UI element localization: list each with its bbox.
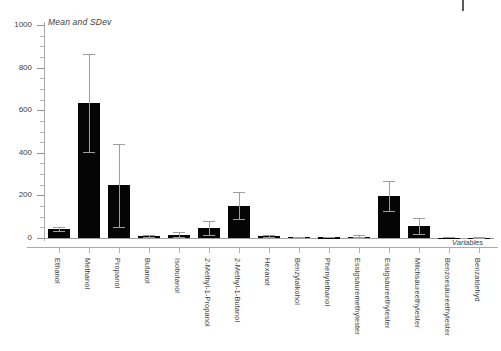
y-tick-minor bbox=[40, 227, 44, 228]
x-tick bbox=[119, 248, 120, 253]
y-tick-label: 1000 bbox=[4, 20, 32, 29]
x-axis-label: Milchsäureethylester bbox=[413, 258, 422, 328]
error-bar-cap-lower bbox=[83, 152, 95, 153]
x-tick bbox=[329, 248, 330, 253]
x-tick bbox=[179, 248, 180, 253]
x-tick bbox=[299, 248, 300, 253]
chart-title: Mean and SDev bbox=[48, 17, 112, 27]
y-tick-label: 200 bbox=[4, 190, 32, 199]
error-bar-cap-lower bbox=[323, 237, 335, 238]
y-tick-major bbox=[37, 195, 44, 196]
x-axis-label: Essigsäureethylester bbox=[383, 258, 392, 329]
y-tick-minor bbox=[40, 89, 44, 90]
error-bar-cap-lower bbox=[173, 237, 185, 238]
x-axis-label: 2-Methyl-1-Propanol bbox=[203, 258, 212, 327]
x-axis-label: Benzaldehyd bbox=[473, 258, 482, 302]
x-tick bbox=[59, 248, 60, 253]
x-axis-label: Essigsäuremethylester bbox=[353, 258, 362, 335]
y-tick-major bbox=[37, 68, 44, 69]
x-axis-label: Methanol bbox=[83, 258, 92, 289]
x-axis-label: Butanol bbox=[143, 258, 152, 284]
x-tick bbox=[239, 248, 240, 253]
x-tick bbox=[359, 248, 360, 253]
x-axis-label: Isobutanol bbox=[173, 258, 182, 293]
y-tick-major bbox=[37, 25, 44, 26]
error-bar-cap-upper bbox=[53, 227, 65, 228]
error-bar-cap-upper bbox=[113, 144, 125, 145]
error-bar-cap-lower bbox=[113, 227, 125, 228]
error-bar-line bbox=[89, 54, 90, 152]
error-bar-cap-lower bbox=[443, 237, 455, 238]
error-bar-cap-lower bbox=[383, 211, 395, 212]
error-bar-line bbox=[389, 181, 390, 211]
y-axis-line bbox=[44, 22, 45, 241]
y-tick-major bbox=[37, 238, 44, 239]
y-tick-minor bbox=[40, 121, 44, 122]
y-tick-minor bbox=[40, 132, 44, 133]
x-axis-title: Variables bbox=[452, 238, 483, 247]
y-tick-minor bbox=[40, 206, 44, 207]
error-bar-cap-upper bbox=[383, 181, 395, 182]
error-bar-cap-lower bbox=[143, 237, 155, 238]
x-tick bbox=[479, 248, 480, 253]
y-tick-major bbox=[37, 110, 44, 111]
x-axis-label: Phenylethanol bbox=[323, 258, 332, 306]
x-axis-label: Benzylalkohol bbox=[293, 258, 302, 305]
x-axis-label: Hexanol bbox=[263, 258, 272, 286]
x-axis-label: Propanol bbox=[113, 258, 122, 288]
error-bar-line bbox=[239, 192, 240, 218]
x-axis-label: 2-Methyl-1-Butanol bbox=[233, 258, 242, 322]
x-tick bbox=[209, 248, 210, 253]
bar-chart: Mean and SDev Variables 0200400600800100… bbox=[0, 0, 501, 351]
plot-baseline bbox=[44, 238, 494, 239]
x-axis-label: Benzoesäureethylester bbox=[443, 258, 452, 336]
y-tick-minor bbox=[40, 185, 44, 186]
y-tick-minor bbox=[40, 78, 44, 79]
error-bar-cap-upper bbox=[413, 218, 425, 219]
y-tick-major bbox=[37, 153, 44, 154]
x-tick bbox=[419, 248, 420, 253]
error-bar-cap-upper bbox=[203, 221, 215, 222]
x-tick bbox=[89, 248, 90, 253]
error-bar-cap-lower bbox=[263, 237, 275, 238]
x-axis-line bbox=[27, 247, 498, 248]
error-bar-cap-upper bbox=[143, 235, 155, 236]
error-bar-cap-lower bbox=[293, 237, 305, 238]
x-tick bbox=[269, 248, 270, 253]
y-tick-minor bbox=[40, 100, 44, 101]
error-bar-line bbox=[209, 221, 210, 235]
y-tick-minor bbox=[40, 36, 44, 37]
y-tick-minor bbox=[40, 217, 44, 218]
y-tick-minor bbox=[40, 174, 44, 175]
error-bar-cap-lower bbox=[473, 237, 485, 238]
y-tick-label: 800 bbox=[4, 63, 32, 72]
error-bar-cap-upper bbox=[233, 192, 245, 193]
y-tick-minor bbox=[40, 46, 44, 47]
page-rule-tick bbox=[462, 0, 464, 11]
error-bar-cap-lower bbox=[233, 219, 245, 220]
error-bar-line bbox=[119, 144, 120, 227]
x-tick bbox=[449, 248, 450, 253]
error-bar-cap-lower bbox=[53, 231, 65, 232]
y-tick-minor bbox=[40, 57, 44, 58]
y-tick-label: 400 bbox=[4, 148, 32, 157]
error-bar-cap-upper bbox=[83, 54, 95, 55]
error-bar-line bbox=[419, 218, 420, 234]
y-tick-label: 600 bbox=[4, 105, 32, 114]
error-bar-cap-upper bbox=[173, 232, 185, 233]
error-bar-cap-lower bbox=[413, 234, 425, 235]
x-tick bbox=[149, 248, 150, 253]
x-axis-label: Ethanol bbox=[53, 258, 62, 284]
y-tick-minor bbox=[40, 163, 44, 164]
error-bar-cap-lower bbox=[203, 235, 215, 236]
x-tick bbox=[389, 248, 390, 253]
y-tick-label: 0 bbox=[4, 233, 32, 242]
error-bar-cap-lower bbox=[353, 237, 365, 238]
y-tick-minor bbox=[40, 142, 44, 143]
